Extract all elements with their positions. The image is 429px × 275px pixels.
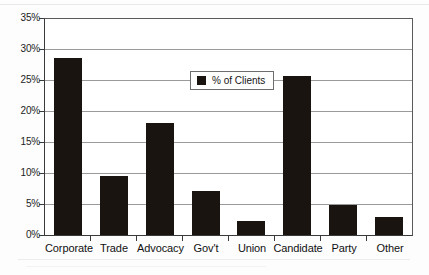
bar-slot-govt <box>183 19 229 235</box>
bar-slot-advocacy <box>137 19 183 235</box>
bar-slot-corporate <box>45 19 91 235</box>
x-axis-label-advocacy: Advocacy <box>137 242 183 255</box>
bar-slot-candidate <box>274 19 320 235</box>
x-axis-label-other: Other <box>367 242 413 255</box>
bar-advocacy[interactable] <box>146 123 174 235</box>
x-tick-mark-5 <box>274 236 275 241</box>
bar-union[interactable] <box>237 221 265 235</box>
y-tick-label-25: 25% <box>0 75 40 85</box>
x-axis-label-candidate: Candidate <box>272 242 324 255</box>
legend-swatch-icon <box>197 76 206 85</box>
x-tick-mark-7 <box>366 236 367 241</box>
y-tick-label-5: 5% <box>0 199 40 209</box>
chart-legend: % of Clients <box>190 71 274 90</box>
bar-slot-party <box>320 19 366 235</box>
bar-other[interactable] <box>375 217 403 236</box>
y-tick-label-35: 35% <box>0 13 40 23</box>
bars-layer <box>45 19 412 235</box>
x-axis-label-trade: Trade <box>91 242 137 255</box>
bar-slot-trade <box>91 19 137 235</box>
scan-artifact-top <box>0 4 429 5</box>
x-axis-label-party: Party <box>321 242 367 255</box>
bar-party[interactable] <box>329 205 357 235</box>
y-tick-label-20: 20% <box>0 106 40 116</box>
bar-slot-union <box>229 19 275 235</box>
bar-candidate[interactable] <box>283 76 311 235</box>
x-tick-mark-1 <box>90 236 91 241</box>
x-tick-mark-2 <box>136 236 137 241</box>
legend-entry-label: % of Clients <box>212 75 265 86</box>
y-tick-label-15: 15% <box>0 137 40 147</box>
x-axis-label-union: Union <box>229 242 275 255</box>
bar-trade[interactable] <box>100 176 128 235</box>
bar-slot-other <box>366 19 412 235</box>
y-tick-label-10: 10% <box>0 168 40 178</box>
x-axis-label-govt: Gov't <box>183 242 229 255</box>
bar-chart-figure: 35% 30% 25% 20% 15% 10% 5% 0% <box>0 0 429 275</box>
y-tick-label-0: 0% <box>0 230 40 240</box>
x-axis-label-corporate: Corporate <box>45 242 91 255</box>
scan-artifact-bottom <box>18 259 410 260</box>
x-tick-mark-6 <box>320 236 321 241</box>
x-tick-mark-4 <box>228 236 229 241</box>
scan-artifact-bottom-2 <box>26 266 266 267</box>
bar-corporate[interactable] <box>54 58 82 235</box>
y-tick-label-30: 30% <box>0 44 40 54</box>
x-tick-mark-3 <box>182 236 183 241</box>
bar-govt[interactable] <box>192 191 220 235</box>
